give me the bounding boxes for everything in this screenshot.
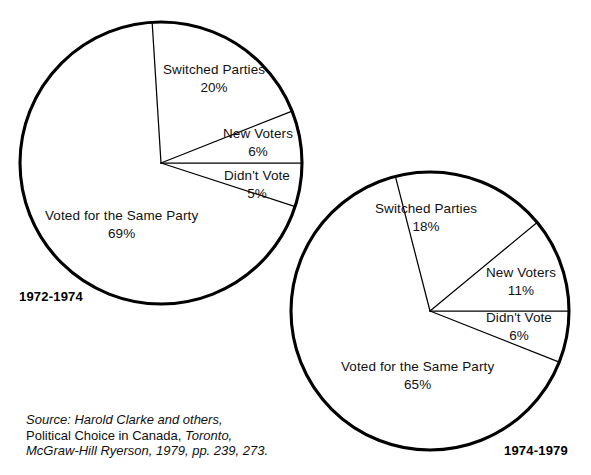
pie1-label-switched-parties: Switched Parties 20% [163,62,265,96]
pie1-same-party-text: Voted for the Same Party [45,208,198,223]
pie2-label-didnt-vote: Didn't Vote 6% [486,310,552,344]
pie1-label-didnt-vote: Didn't Vote 5% [224,168,290,202]
source-line-3: McGraw-Hill Ryerson, 1979, pp. 239, 273. [26,443,268,459]
pie1-switched-text: Switched Parties [163,62,265,77]
pie1-switched-pct: 20% [163,80,265,96]
pie1-didnt-vote-pct: 5% [224,186,290,202]
pie2-didnt-vote-pct: 6% [486,328,552,344]
pie2-same-party-text: Voted for the Same Party [341,359,494,374]
pie2-label-same-party: Voted for the Same Party 65% [341,359,494,393]
pie1-new-voters-text: New Voters [223,126,293,141]
source-line-2: Political Choice in Canada, Toronto, [26,428,268,444]
pie2-switched-pct: 18% [375,219,477,235]
source-city: Toronto, [185,428,232,443]
pie1-didnt-vote-text: Didn't Vote [224,168,290,183]
pie1-label-same-party: Voted for the Same Party 69% [45,208,198,242]
pie2-period-label: 1974-1979 [504,443,568,458]
voting-patterns-figure: Switched Parties 20% New Voters 6% Didn'… [0,0,591,475]
source-citation: Source: Harold Clarke and others, Politi… [26,412,268,459]
pie1-period-label: 1972-1974 [19,289,83,304]
pie1-new-voters-pct: 6% [223,144,293,160]
pie2-switched-text: Switched Parties [375,201,477,216]
pie2-label-switched-parties: Switched Parties 18% [375,201,477,235]
source-line-1: Source: Harold Clarke and others, [26,412,268,428]
pie2-same-party-pct: 65% [341,377,494,393]
source-book-title: Political Choice in Canada, [26,428,181,443]
pie2-didnt-vote-text: Didn't Vote [486,310,552,325]
pie1-label-new-voters: New Voters 6% [223,126,293,160]
pie2-new-voters-text: New Voters [486,265,556,280]
pie1-same-party-pct: 69% [45,226,198,242]
pie2-new-voters-pct: 11% [486,283,556,299]
pie2-label-new-voters: New Voters 11% [486,265,556,299]
